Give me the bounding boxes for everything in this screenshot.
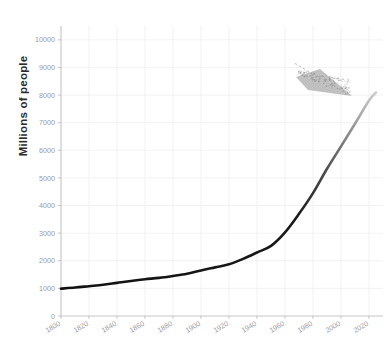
x-tick-label: 1820 [72, 319, 90, 335]
annotation-blur-speck [347, 92, 348, 93]
annotation-blur-speck [347, 81, 348, 82]
population-chart-figure: Millions of people 010002000300040005000… [0, 0, 392, 351]
annotation-blur-speck [340, 88, 341, 89]
y-tick-label: 4000 [39, 201, 55, 210]
y-tick-label: 2000 [39, 256, 55, 265]
annotation-blur-speck [346, 90, 347, 91]
annotation-blur-speck [344, 93, 345, 94]
annotation-blur-speck [304, 76, 305, 77]
annotation-blur-speck [350, 82, 351, 83]
annotation-blur-speck [334, 82, 335, 83]
annotation-blur-speck [312, 79, 313, 80]
x-tick-label: 1800 [44, 319, 62, 335]
annotation-blur-speck [332, 83, 333, 84]
annotation-blur-speck [326, 86, 327, 87]
annotation-blur-speck [346, 87, 347, 88]
gridlines [61, 26, 383, 316]
annotation-blur-speck [321, 76, 322, 77]
annotation-blur-speck [329, 83, 330, 84]
y-tick-label: 3000 [39, 229, 55, 238]
y-axis-ticks: 0100020003000400050006000700080009000100… [35, 35, 61, 320]
annotation-blur-speck [337, 78, 338, 79]
annotation-blurred-label [296, 69, 352, 96]
annotation-blur-speck [330, 84, 331, 85]
annotation-blur-speck [337, 88, 338, 89]
annotation-blur-speck [350, 80, 351, 81]
annotation-blur-speck [299, 72, 300, 73]
y-tick-label: 9000 [39, 63, 55, 72]
annotation-blur-speck [307, 73, 308, 74]
annotation-blur-speck [332, 85, 333, 86]
annotation-blur-speck [303, 73, 304, 74]
annotation-blur-speck [328, 82, 329, 83]
annotation-blur-speck [347, 93, 348, 94]
annotation-blur-speck [314, 80, 315, 81]
annotation-blur-speck [301, 71, 302, 72]
y-tick-label: 6000 [39, 146, 55, 155]
annotation-blur-speck [306, 72, 307, 73]
annotation-blur-speck [338, 83, 339, 84]
annotation-blur-speck [311, 73, 312, 74]
annotation-blur-speck [328, 77, 329, 78]
annotation-blur-speck [348, 87, 349, 88]
x-tick-label: 1900 [184, 319, 202, 335]
annotation-blur-speck [331, 87, 332, 88]
annotation-blur-speck [312, 77, 313, 78]
annotation-blur-speck [346, 88, 347, 89]
annotation-blur-speck [299, 71, 300, 72]
annotation-blur-speck [344, 80, 345, 81]
annotation-blur-speck [339, 80, 340, 81]
annotation-blur-speck [311, 75, 312, 76]
annotation-blur-speck [343, 86, 344, 87]
annotation-blur-speck [314, 74, 315, 75]
x-tick-label: 1960 [268, 319, 286, 335]
x-tick-label: 1940 [240, 319, 258, 335]
annotation-blur-speck [309, 74, 310, 75]
annotation-blur-speck [328, 85, 329, 86]
annotation-blur-speck [331, 77, 332, 78]
annotation-blur-speck [346, 84, 347, 85]
annotation-blur-speck [308, 75, 309, 76]
x-tick-label: 1920 [212, 319, 230, 335]
annotation-blur-speck [342, 79, 343, 80]
annotation-blur-speck [335, 78, 336, 79]
annotation-blur-speck [329, 76, 330, 77]
x-tick-label: 2020 [352, 319, 370, 335]
annotation-blur-speck [319, 74, 320, 75]
annotation-blur-speck [336, 82, 337, 83]
population-line-series [61, 92, 376, 288]
annotation-blur-speck [330, 81, 331, 82]
annotation-blur-speck [323, 83, 324, 84]
annotation-blur-speck [333, 82, 334, 83]
annotation-blur-speck [318, 81, 319, 82]
x-tick-label: 1860 [128, 319, 146, 335]
annotation-blur-speck [345, 86, 346, 87]
y-tick-label: 1000 [39, 284, 55, 293]
annotation-blur-speck [326, 79, 327, 80]
y-tick-label: 10000 [35, 35, 55, 44]
x-axis-ticks: 1800182018401860188019001920194019601980… [44, 316, 370, 335]
annotation-blur-speck [333, 89, 334, 90]
annotation-blur-speck [311, 77, 312, 78]
annotation-blur-speck [329, 79, 330, 80]
annotation-blur-speck [345, 93, 346, 94]
annotation-blur-speck [334, 77, 335, 78]
annotation-blur-speck [338, 80, 339, 81]
annotation-blur-speck [319, 79, 320, 80]
annotation-blur-speck [329, 80, 330, 81]
annotation-blur-speck [330, 86, 331, 87]
annotation-blur-speck [323, 76, 324, 77]
annotation-blur-speck [314, 79, 315, 80]
annotation-blur-speck [327, 79, 328, 80]
annotation-blur-speck [331, 86, 332, 87]
annotation-blur-speck [350, 91, 351, 92]
x-tick-label: 1840 [100, 319, 118, 335]
y-tick-label: 0 [51, 312, 55, 321]
annotation-blur-speck [300, 72, 301, 73]
annotation-blur-speck [309, 78, 310, 79]
annotation-blur-speck [348, 79, 349, 80]
annotation-blur-speck [324, 79, 325, 80]
annotation-blur-speck [319, 76, 320, 77]
annotation-blur-speck [308, 72, 309, 73]
annotation-blur-speck [334, 85, 335, 86]
